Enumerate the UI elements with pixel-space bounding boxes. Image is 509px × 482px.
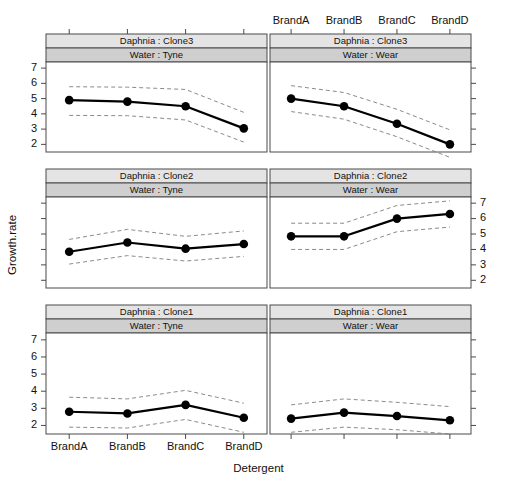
data-point-clone3-tyne-BrandD: [240, 124, 249, 133]
y-tick-label: 2: [31, 418, 37, 430]
y-axis-row-0: 234567: [31, 61, 46, 149]
y-tick-label: 7: [31, 333, 37, 345]
strip-daphnia-label-clone1-tyne: Daphnia : Clone1: [120, 306, 193, 317]
data-point-clone2-wear-BrandC: [393, 214, 402, 223]
y-tick-label: 6: [31, 76, 37, 88]
x-axis-bottom-left: BrandABrandBBrandCBrandD: [51, 434, 263, 452]
y-ticks-unlabelled-row-2: [471, 340, 476, 426]
strip-daphnia-label-clone3-tyne: Daphnia : Clone3: [120, 35, 193, 46]
panel-clone1-wear: Daphnia : Clone1Water : Wear: [270, 305, 471, 434]
y-tick-label: 3: [31, 122, 37, 134]
panel-frame-clone3-wear: [270, 62, 471, 152]
x-tick-label: BrandB: [326, 14, 363, 26]
data-point-clone1-tyne-BrandC: [181, 401, 190, 410]
data-point-clone2-wear-BrandD: [446, 210, 455, 219]
data-point-clone2-tyne-BrandC: [181, 244, 190, 253]
y-tick-label: 5: [31, 367, 37, 379]
x-axis-top-left: [69, 29, 244, 34]
strip-daphnia-label-clone1-wear: Daphnia : Clone1: [334, 306, 407, 317]
x-tick-label: BrandA: [273, 14, 310, 26]
y-axis-row-1: 234567: [471, 196, 486, 285]
strip-water-label-clone2-wear: Water : Wear: [343, 184, 398, 195]
x-tick-label: BrandA: [51, 440, 88, 452]
x-axis-bottom-right: [291, 434, 450, 439]
y-tick-label: 5: [31, 92, 37, 104]
y-tick-label: 6: [31, 350, 37, 362]
strip-water-label-clone2-tyne: Water : Tyne: [130, 184, 183, 195]
y-tick-label: 2: [480, 273, 486, 285]
y-tick-label: 4: [31, 384, 37, 396]
data-point-clone1-wear-BrandA: [287, 414, 296, 423]
x-axis-title: Detergent: [233, 462, 284, 474]
panel-clone1-tyne: Daphnia : Clone1Water : Tyne: [46, 305, 267, 434]
data-point-clone1-wear-BrandB: [340, 408, 349, 417]
data-point-clone1-wear-BrandD: [446, 416, 455, 425]
x-tick-label: BrandD: [225, 440, 262, 452]
y-tick-label: 4: [31, 107, 37, 119]
panel-clone3-wear: Daphnia : Clone3Water : Wear: [270, 34, 471, 157]
trellis-plot: Daphnia : Clone3Water : TyneDaphnia : Cl…: [0, 0, 509, 482]
data-point-clone1-wear-BrandC: [393, 412, 402, 421]
y-axis-title: Growth.rate: [6, 215, 18, 275]
y-ticks-unlabelled-row-1: [41, 203, 46, 280]
data-point-clone2-tyne-BrandD: [240, 240, 249, 249]
strip-water-label-clone1-wear: Water : Wear: [343, 320, 398, 331]
data-point-clone3-wear-BrandC: [393, 119, 402, 128]
y-tick-label: 5: [480, 227, 486, 239]
strip-water-label-clone3-wear: Water : Wear: [343, 49, 398, 60]
data-point-clone3-wear-BrandD: [446, 140, 455, 149]
panel-clone2-wear: Daphnia : Clone2Water : Wear: [270, 169, 471, 288]
y-tick-label: 6: [480, 211, 486, 223]
panel-clone3-tyne: Daphnia : Clone3Water : Tyne: [46, 34, 267, 152]
strip-daphnia-label-clone3-wear: Daphnia : Clone3: [334, 35, 407, 46]
strip-water-label-clone3-tyne: Water : Tyne: [130, 49, 183, 60]
y-ticks-unlabelled-row-0: [471, 68, 476, 144]
x-tick-label: BrandD: [431, 14, 468, 26]
x-tick-label: BrandB: [109, 440, 146, 452]
strip-water-label-clone1-tyne: Water : Tyne: [130, 320, 183, 331]
data-point-clone1-tyne-BrandD: [240, 413, 249, 422]
data-point-clone1-tyne-BrandA: [65, 407, 74, 416]
data-point-clone3-wear-BrandB: [340, 102, 349, 111]
x-tick-label: BrandC: [378, 14, 415, 26]
panel-frame-clone1-tyne: [46, 333, 267, 434]
data-point-clone1-tyne-BrandB: [123, 409, 132, 418]
x-axis-top-right: BrandABrandBBrandCBrandD: [273, 14, 469, 34]
y-tick-label: 2: [31, 137, 37, 149]
y-tick-label: 3: [480, 258, 486, 270]
panel-frame-clone2-wear: [270, 197, 471, 288]
x-tick-label: BrandC: [167, 440, 204, 452]
data-point-clone2-tyne-BrandB: [123, 238, 132, 247]
data-point-clone2-wear-BrandA: [287, 232, 296, 241]
data-point-clone3-tyne-BrandA: [65, 96, 74, 105]
data-point-clone2-wear-BrandB: [340, 232, 349, 241]
panel-frame-clone2-tyne: [46, 197, 267, 288]
data-point-clone2-tyne-BrandA: [65, 247, 74, 256]
y-tick-label: 4: [480, 242, 486, 254]
plot-canvas: Daphnia : Clone3Water : TyneDaphnia : Cl…: [0, 0, 509, 482]
y-axis-row-2: 234567: [31, 333, 46, 431]
y-tick-label: 7: [31, 61, 37, 73]
y-tick-label: 3: [31, 401, 37, 413]
data-point-clone3-wear-BrandA: [287, 94, 296, 103]
y-tick-label: 7: [480, 196, 486, 208]
data-point-clone3-tyne-BrandB: [123, 97, 132, 106]
panel-clone2-tyne: Daphnia : Clone2Water : Tyne: [46, 169, 267, 288]
strip-daphnia-label-clone2-tyne: Daphnia : Clone2: [120, 170, 193, 181]
data-point-clone3-tyne-BrandC: [181, 102, 190, 111]
strip-daphnia-label-clone2-wear: Daphnia : Clone2: [334, 170, 407, 181]
